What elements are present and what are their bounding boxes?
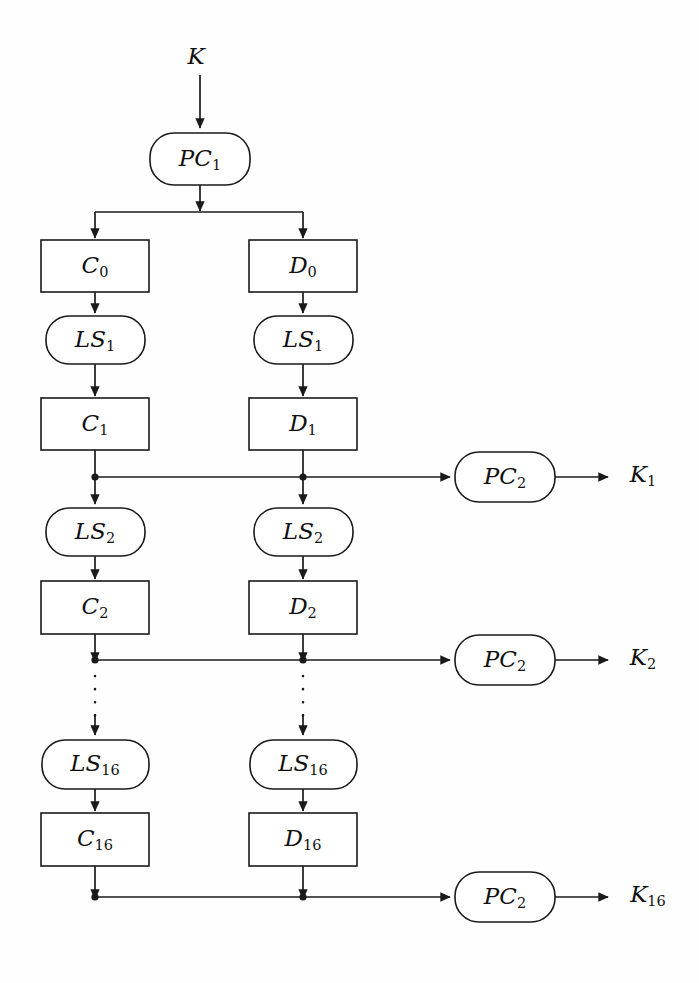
subkey-k16-label: K16 xyxy=(629,881,666,909)
junction-dot-d16 xyxy=(299,893,306,900)
des-key-schedule-diagram: K PC1 C0 D0 LS1 LS1 xyxy=(0,0,699,983)
junction-dot-d1 xyxy=(299,473,306,480)
subkey-k2-label: K2 xyxy=(629,644,656,672)
input-key-label: K xyxy=(186,43,206,69)
junction-dot-d2 xyxy=(299,656,306,663)
subkey-k1-label: K1 xyxy=(629,461,656,489)
junction-dot-c16 xyxy=(91,893,98,900)
diagram-canvas: K PC1 C0 D0 LS1 LS1 xyxy=(0,0,699,983)
junction-dot-c1 xyxy=(91,473,98,480)
junction-dot-c2 xyxy=(91,656,98,663)
